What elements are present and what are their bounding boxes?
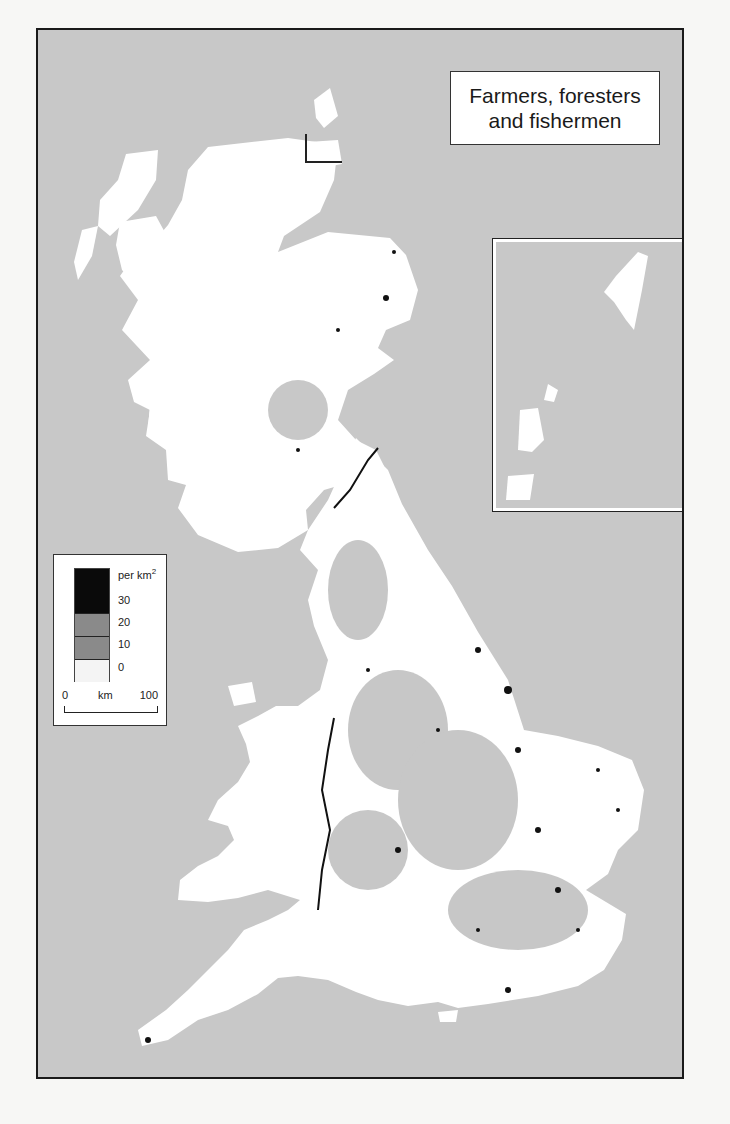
legend-label-0: 0: [118, 661, 124, 673]
map-frame: Farmers, foresters and fishermen per km2…: [36, 28, 684, 1079]
title-line-2: and fishermen: [488, 108, 621, 133]
legend-label-20: 20: [118, 616, 130, 628]
title-line-1: Farmers, foresters: [469, 83, 641, 108]
land-isle-of-wight: [438, 1010, 458, 1022]
legend-label-30: 30: [118, 594, 130, 606]
scale-bar: 0 km 100: [62, 689, 158, 719]
swatch-10-20: [75, 636, 109, 659]
scale-unit: km: [98, 689, 113, 701]
legend: per km2 30 20 10 0 0 km 100: [53, 554, 167, 726]
legend-unit: per km2: [118, 567, 156, 581]
scale-bar-line: [64, 706, 158, 713]
legend-label-10: 10: [118, 638, 130, 650]
legend-swatches: [74, 568, 110, 682]
swatch-0-10: [75, 659, 109, 682]
inset-frame: [492, 238, 684, 512]
map-title: Farmers, foresters and fishermen: [450, 71, 660, 145]
scale-start: 0: [62, 689, 68, 701]
swatch-30-plus: [75, 569, 109, 613]
scale-end: 100: [140, 689, 158, 701]
swatch-20-30: [75, 613, 109, 636]
land-anglesey: [228, 682, 256, 706]
